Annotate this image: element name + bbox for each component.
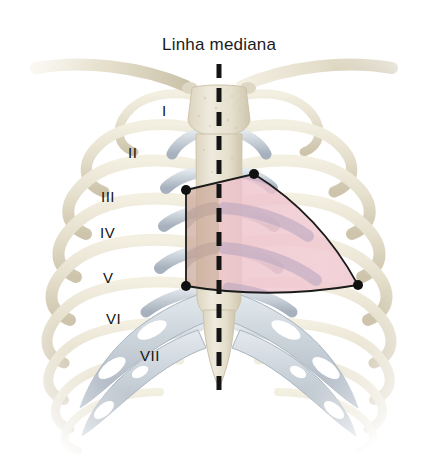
rib-label-2: II	[128, 145, 137, 160]
clavicle-left	[36, 65, 186, 86]
rib-label-5: V	[103, 270, 114, 285]
clavicle-right	[242, 65, 392, 86]
figure-canvas: Linha mediana I II III IV V VI VII	[0, 0, 428, 455]
rib-label-4: IV	[100, 225, 115, 240]
rib-label-7: VII	[140, 348, 160, 363]
rib-label-6: VI	[106, 311, 121, 326]
vertex-inferior-right	[353, 280, 363, 290]
clavicles	[36, 65, 392, 86]
rib-label-3: III	[101, 189, 115, 204]
thorax-illustration	[0, 0, 428, 455]
page-title: Linha mediana	[162, 36, 276, 53]
rib-label-1: I	[162, 103, 167, 118]
vertex-superior-right	[249, 169, 259, 179]
vertex-inferior-left	[181, 281, 191, 291]
vertex-superior-left	[181, 185, 191, 195]
